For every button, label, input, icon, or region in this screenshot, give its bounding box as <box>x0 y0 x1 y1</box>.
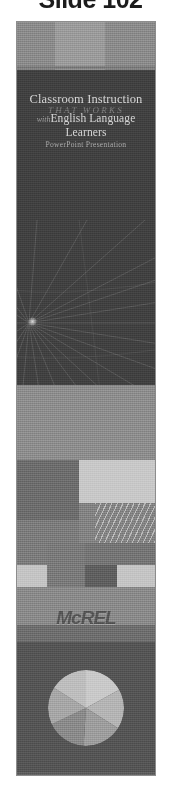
slide-title-panel: Classroom Instruction THAT WORKS withEng… <box>17 70 155 385</box>
title-line-secondary: withEnglish Language Learners <box>17 112 155 139</box>
title-line-connector: with <box>37 115 51 124</box>
block-lower-mid <box>47 543 85 587</box>
slide-thumbnail[interactable]: Classroom Instruction THAT WORKS withEng… <box>17 22 155 775</box>
pie-chart-slices <box>48 670 124 746</box>
mcrel-logo: McREL <box>56 607 115 629</box>
pie-chart <box>48 670 124 746</box>
top-band-divider <box>17 66 155 69</box>
logo-area: McREL <box>17 607 155 629</box>
slide-mid-band <box>17 385 155 460</box>
block-left-dark <box>17 460 79 520</box>
starburst-focal-point <box>28 317 37 326</box>
title-subtitle: PowerPoint Presentation <box>17 140 155 150</box>
block-lower-right-light <box>117 565 155 587</box>
top-band-accent-square <box>55 22 105 70</box>
title-line-primary: Classroom Instruction <box>17 92 155 106</box>
slide-title-block: Classroom Instruction THAT WORKS withEng… <box>17 92 155 150</box>
slide-top-band <box>17 22 155 70</box>
slide-block-grid <box>17 460 155 625</box>
starburst-graphic <box>17 220 155 385</box>
block-right-light <box>79 460 155 503</box>
block-hatch-pattern <box>95 503 155 543</box>
block-lower-left-light <box>17 565 47 587</box>
slide-caption: Slide 102 <box>0 0 181 14</box>
title-line-secondary-text: English Language Learners <box>50 112 135 138</box>
slide-bottom-divider <box>17 772 155 775</box>
block-lower-dark <box>85 565 117 587</box>
